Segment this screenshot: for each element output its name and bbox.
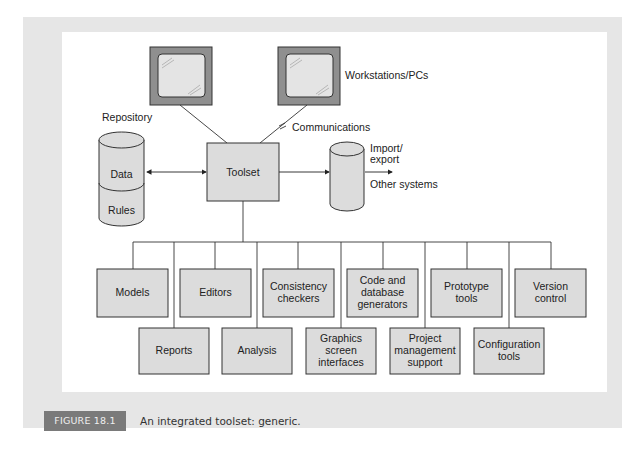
svg-text:database: database — [361, 286, 404, 298]
svg-text:interfaces: interfaces — [318, 356, 364, 368]
integrated-toolset-diagram: Workstations/PCs Communications Reposito… — [0, 0, 644, 463]
figure-caption: An integrated toolset: generic. — [140, 411, 301, 431]
tool-box-analysis: Analysis — [222, 328, 292, 374]
workstation-monitor-icon — [278, 47, 340, 105]
svg-text:Prototype: Prototype — [444, 280, 489, 292]
repository-label: Repository — [102, 111, 153, 123]
svg-text:screen: screen — [325, 344, 357, 356]
other-systems-label: Other systems — [370, 178, 438, 190]
connector-line — [180, 105, 227, 143]
svg-text:Configuration: Configuration — [478, 338, 541, 350]
tool-box-prototype-tools: Prototype tools — [431, 269, 502, 317]
svg-text:Version: Version — [533, 280, 568, 292]
import-export-database-icon — [330, 142, 364, 211]
svg-text:management: management — [394, 344, 455, 356]
tool-box-editors: Editors — [180, 269, 251, 317]
communications-break-icon — [279, 123, 286, 129]
tool-box-configuration-tools: Configuration tools — [474, 328, 544, 374]
svg-text:tools: tools — [455, 292, 477, 304]
tool-box-models: Models — [97, 269, 168, 317]
tool-box-version-control: Version control — [515, 269, 586, 317]
tool-box-code-database-generators: Code and database generators — [347, 269, 418, 317]
svg-text:generators: generators — [357, 298, 407, 310]
tool-box-graphics-screen-interfaces: Graphics screen interfaces — [306, 328, 376, 374]
import-export-label: export — [370, 153, 399, 165]
svg-text:Analysis: Analysis — [237, 344, 276, 356]
workstations-label: Workstations/PCs — [345, 69, 428, 81]
tool-box-consistency-checkers: Consistency checkers — [263, 269, 334, 317]
repository-data-label: Data — [110, 168, 132, 180]
svg-text:tools: tools — [498, 350, 520, 362]
workstation-monitor-icon — [150, 47, 212, 105]
svg-text:control: control — [535, 292, 567, 304]
tool-box-project-management-support: Project management support — [390, 328, 460, 374]
svg-text:Graphics: Graphics — [320, 332, 362, 344]
toolset-label: Toolset — [226, 166, 259, 178]
repository-rules-label: Rules — [108, 204, 135, 216]
svg-text:Models: Models — [116, 286, 150, 298]
svg-text:Project: Project — [409, 332, 442, 344]
svg-text:support: support — [407, 356, 442, 368]
figure-number-badge: FIGURE 18.1 — [44, 411, 126, 431]
svg-text:Code and: Code and — [360, 274, 406, 286]
tool-box-reports: Reports — [139, 328, 209, 374]
communications-label: Communications — [292, 121, 370, 133]
svg-text:checkers: checkers — [277, 292, 319, 304]
svg-text:Reports: Reports — [156, 344, 193, 356]
svg-text:Consistency: Consistency — [270, 280, 328, 292]
svg-text:Editors: Editors — [199, 286, 232, 298]
